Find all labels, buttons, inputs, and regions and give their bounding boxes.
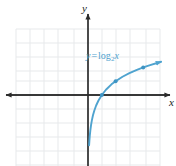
graph-canvas bbox=[0, 0, 176, 166]
equation-function-name: log bbox=[98, 50, 111, 61]
curve-equation-label: y=log2x bbox=[86, 51, 119, 61]
point-1-0 bbox=[100, 93, 104, 97]
axes bbox=[6, 14, 170, 166]
log-curve bbox=[89, 62, 161, 145]
equation-base: 2 bbox=[111, 55, 115, 63]
equation-argument: x bbox=[114, 50, 118, 61]
logarithmic-function-graph: y x y=log2x bbox=[0, 0, 176, 166]
log-curve-path bbox=[89, 62, 161, 145]
point-4-2 bbox=[141, 65, 145, 69]
equation-operator: = bbox=[90, 50, 98, 61]
y-axis-label: y bbox=[82, 3, 87, 14]
point-2-1 bbox=[114, 79, 118, 83]
x-axis-label: x bbox=[169, 97, 174, 108]
